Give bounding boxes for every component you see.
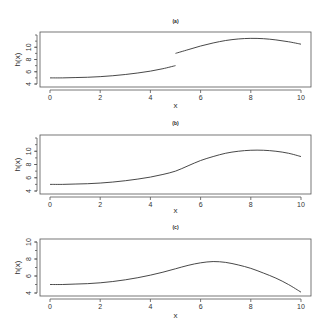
x-tick-label: 8 xyxy=(249,201,253,208)
y-tick-label: 6 xyxy=(25,274,32,278)
x-tick-label: 4 xyxy=(148,201,152,208)
x-tick-label: 2 xyxy=(98,94,102,101)
series-line xyxy=(50,66,176,78)
y-tick-label: 8 xyxy=(25,57,32,61)
x-tick-label: 4 xyxy=(148,303,152,310)
plot-box-0 xyxy=(40,32,311,87)
x-tick-label: 4 xyxy=(148,94,152,101)
x-tick-label: 10 xyxy=(297,201,305,208)
panel-title: (c) xyxy=(172,224,178,230)
y-tick-label: 6 xyxy=(25,70,32,74)
x-tick-label: 6 xyxy=(199,303,203,310)
y-tick-label: 8 xyxy=(25,162,32,166)
plot-box-1 xyxy=(40,135,311,194)
x-tick-label: 8 xyxy=(249,94,253,101)
x-tick-label: 0 xyxy=(48,303,52,310)
y-tick-label: 10 xyxy=(25,43,32,51)
series-line xyxy=(176,38,302,53)
y-tick-label: 10 xyxy=(25,147,32,155)
x-tick-label: 0 xyxy=(48,94,52,101)
panel-title: (b) xyxy=(172,120,179,126)
y-tick-label: 4 xyxy=(25,189,32,193)
y-axis-label: h(x) xyxy=(13,157,22,171)
x-axis-label: x xyxy=(174,206,178,215)
y-axis-label: h(x) xyxy=(13,52,22,66)
series-line xyxy=(50,262,301,293)
x-tick-label: 8 xyxy=(249,303,253,310)
chart-figure: (a)0246810x46810h(x)(b)0246810x46810h(x)… xyxy=(0,0,330,331)
y-axis-label: h(x) xyxy=(13,260,22,274)
x-tick-label: 10 xyxy=(297,94,305,101)
x-axis-label: x xyxy=(174,311,178,320)
y-tick-label: 6 xyxy=(25,176,32,180)
x-axis-label: x xyxy=(174,101,178,110)
x-tick-label: 0 xyxy=(48,201,52,208)
series-line xyxy=(50,150,301,184)
x-tick-label: 6 xyxy=(199,201,203,208)
y-tick-label: 8 xyxy=(25,257,32,261)
x-tick-label: 2 xyxy=(98,201,102,208)
x-tick-label: 6 xyxy=(199,94,203,101)
panel-title: (a) xyxy=(172,18,178,24)
plot-box-2 xyxy=(40,239,311,296)
x-tick-label: 10 xyxy=(297,303,305,310)
y-tick-label: 10 xyxy=(25,238,32,246)
y-tick-label: 4 xyxy=(25,82,32,86)
y-tick-label: 4 xyxy=(25,291,32,295)
x-tick-label: 2 xyxy=(98,303,102,310)
